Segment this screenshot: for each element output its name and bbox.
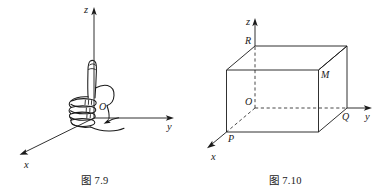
vertex-label-Q: Q [342,111,350,122]
thumb-knuckle-crease [89,69,96,70]
x-axis-label: x [210,151,216,162]
figure-right-hand-rule: z y x O [0,0,190,196]
rotation-arrow-head [104,118,111,123]
x-axis-line [25,118,94,152]
origin-label-left: O [99,101,106,112]
figures-root: z y x O [0,0,381,196]
figure-rectangular-box: z y x [190,0,381,196]
x-axis-group-left: x [20,118,95,170]
z-axis-label: z [83,4,88,15]
y-axis-label: y [364,111,370,122]
y-axis-label: y [166,121,172,132]
thumb-nail-crease [90,64,96,65]
fist-finger-fold-4 [71,119,95,127]
thumb-outline [88,60,97,98]
x-axis-group-right: x [207,132,227,162]
y-axis-group-left: y [94,115,174,132]
x-axis-line [212,132,227,144]
box-edge-right-top-receding [319,46,348,70]
caption-figure-7-10: 图 7.10 [190,172,381,187]
vertex-label-R: R [244,35,251,46]
caption-figure-7-9: 图 7.9 [0,172,190,187]
rotation-arrow [104,118,119,124]
y-axis-group-right: y [347,105,372,122]
box-top-face [227,46,348,70]
hidden-edges-group [227,46,348,132]
vertex-label-P: P [227,133,234,144]
x-axis-label: x [23,159,29,170]
origin-label-right: O [245,96,252,107]
right-hand-illustration [69,60,124,131]
x-axis-arrowhead [20,149,29,155]
vertex-label-M: M [320,69,330,80]
box-edges-group [227,46,348,132]
hidden-edge-O-to-P [227,108,256,132]
wrist-lower-contour [91,127,124,131]
z-axis-label: z [245,16,250,27]
wrist-upper-contour [107,106,109,119]
